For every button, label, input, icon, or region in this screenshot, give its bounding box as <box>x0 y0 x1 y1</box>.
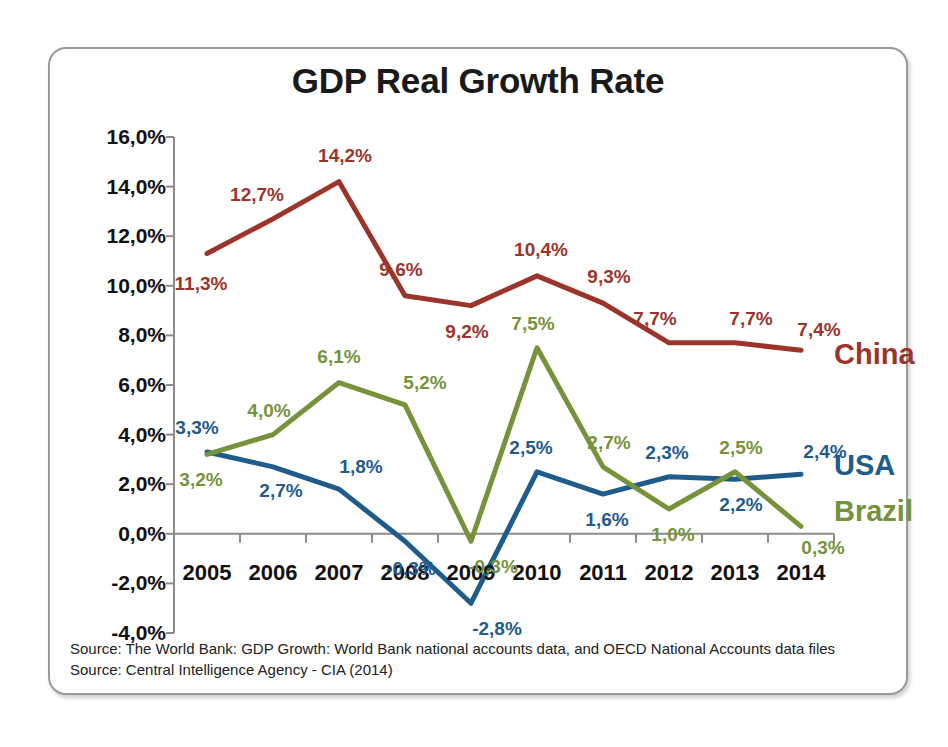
chart-card: GDP Real Growth Rate 16,0%14,0%12,0%10,0… <box>48 47 908 695</box>
data-label-usa: 2,5% <box>509 437 552 459</box>
data-label-usa: 1,8% <box>339 456 382 478</box>
data-label-china: 11,3% <box>175 273 228 295</box>
data-label-usa: 2,7% <box>259 480 302 502</box>
data-label-china: 9,2% <box>445 321 488 343</box>
data-label-brazil: 1,0% <box>651 524 694 546</box>
x-axis-tick-label: 2011 <box>579 560 627 586</box>
plot-area: 16,0%14,0%12,0%10,0%8,0%6,0%4,0%2,0%0,0%… <box>50 49 910 697</box>
series-legend-usa: USA <box>834 449 895 482</box>
data-label-usa: 2,2% <box>719 494 762 516</box>
data-label-china: 7,7% <box>633 308 676 330</box>
data-label-brazil: 6,1% <box>317 346 360 368</box>
data-label-brazil: 2,7% <box>587 432 630 454</box>
data-label-china: 14,2% <box>318 145 372 167</box>
data-label-usa: 2,3% <box>645 442 688 464</box>
data-label-usa: -0,3% <box>386 558 436 580</box>
data-label-brazil: 3,2% <box>179 469 222 491</box>
series-legend-china: China <box>834 338 915 371</box>
data-label-brazil: 5,2% <box>403 372 446 394</box>
x-axis-tick-label: 2010 <box>513 560 562 586</box>
x-axis-tick-label: 2007 <box>315 560 364 586</box>
data-label-china: 9,6% <box>379 259 422 281</box>
data-label-china: 12,7% <box>230 184 284 206</box>
data-label-brazil: 4,0% <box>247 400 290 422</box>
x-axis: 2005200620072008200920102011201220132014… <box>50 49 910 697</box>
data-label-usa: 1,6% <box>585 509 628 531</box>
x-axis-tick-label: 2012 <box>645 560 694 586</box>
data-label-china: 9,3% <box>587 266 630 288</box>
x-axis-tick-label: 2006 <box>249 560 298 586</box>
source-line-1: Source: The World Bank: GDP Growth: Worl… <box>70 638 896 660</box>
source-footnote: Source: The World Bank: GDP Growth: Worl… <box>70 638 896 682</box>
data-label-brazil: 0,3% <box>801 537 844 559</box>
data-label-brazil: -0,3% <box>468 556 518 578</box>
x-axis-tick-label: 2005 <box>183 560 232 586</box>
series-legend-brazil: Brazil <box>834 495 913 528</box>
source-line-2: Source: Central Intelligence Agency - CI… <box>70 659 896 681</box>
data-label-china: 10,4% <box>514 239 568 261</box>
data-label-china: 7,7% <box>729 308 772 330</box>
data-label-brazil: 2,5% <box>719 437 762 459</box>
data-label-brazil: 7,5% <box>511 313 554 335</box>
x-axis-tick-label: 2014 <box>777 560 826 586</box>
data-label-usa: 3,3% <box>175 417 218 439</box>
x-axis-tick-label: 2013 <box>711 560 760 586</box>
